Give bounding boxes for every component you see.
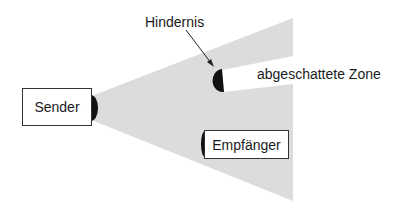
receiver-box: Empfänger: [204, 130, 289, 159]
signal-beam: [94, 18, 293, 201]
sender-box: Sender: [22, 88, 92, 126]
shadow-zone-label: abgeschattete Zone: [257, 67, 381, 81]
obstacle-label: Hindernis: [145, 15, 204, 29]
